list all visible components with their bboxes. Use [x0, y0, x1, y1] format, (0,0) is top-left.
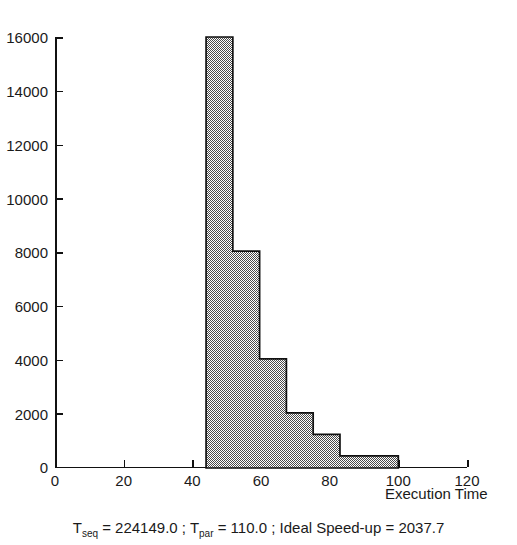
y-tick-label: 0	[0, 460, 48, 475]
x-tick-label: 60	[253, 473, 270, 488]
x-axis-tick	[467, 460, 469, 467]
y-tick-label: 16000	[0, 30, 48, 45]
x-tick-label: 20	[115, 473, 132, 488]
tseq-symbol: T	[73, 519, 82, 536]
histogram-bars	[55, 37, 467, 468]
tseq-value: = 224149.0 ;	[98, 519, 190, 536]
y-tick-label: 14000	[0, 84, 48, 99]
x-tick-label: 0	[51, 473, 59, 488]
tpar-subscript: par	[199, 528, 213, 539]
caption-tpar: Tpar = 110.0 ;	[190, 519, 280, 536]
figure-caption: Tseq = 224149.0 ; Tpar = 110.0 ; Ideal S…	[0, 519, 517, 537]
y-tick-label: 6000	[0, 299, 48, 314]
y-tick-label: 4000	[0, 353, 48, 368]
y-tick-label: 2000	[0, 407, 48, 422]
x-tick-label: 40	[184, 473, 201, 488]
y-tick-label: 8000	[0, 245, 48, 260]
y-axis-tick-labels: 16000 14000 12000 10000 8000 6000 4000 2…	[0, 0, 48, 545]
tpar-value: = 110.0 ;	[214, 519, 280, 536]
y-tick-label: 10000	[0, 192, 48, 207]
y-tick-label: 12000	[0, 138, 48, 153]
tseq-subscript: seq	[82, 528, 98, 539]
tpar-symbol: T	[190, 519, 199, 536]
caption-tseq: Tseq = 224149.0 ;	[73, 519, 190, 536]
caption-speedup: Ideal Speed-up = 2037.7	[280, 519, 445, 536]
histogram-figure: 16000 14000 12000 10000 8000 6000 4000 2…	[0, 0, 517, 545]
x-tick-label: 80	[321, 473, 338, 488]
x-axis-title: Execution Time	[385, 486, 488, 502]
